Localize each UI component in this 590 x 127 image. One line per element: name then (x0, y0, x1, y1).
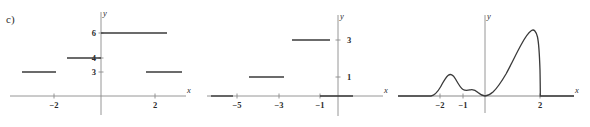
chart-1: −2 2 6 4 3 x y (0, 0, 200, 127)
curve-path (398, 30, 574, 96)
x-ticklabel-2: 2 (153, 100, 157, 110)
chart-3-axes (398, 15, 574, 113)
x-ticklabel--3: −3 (274, 100, 283, 110)
x-ticklabel--2: −2 (49, 100, 58, 110)
chart-2-labels: −5 −3 −1 3 1 x y (232, 11, 388, 110)
y-axis-label: y (102, 8, 107, 18)
x-ticklabel--1: −1 (315, 100, 324, 110)
chart-2: −5 −3 −1 3 1 x y (195, 0, 395, 127)
x-ticklabel--2: −2 (435, 100, 444, 110)
chart-1-axes (10, 12, 186, 115)
chart-3-series (398, 30, 574, 96)
y-axis-label: y (486, 11, 491, 21)
y-axis-label: y (339, 11, 344, 21)
chart-1-series (22, 33, 182, 72)
y-ticklabel-3: 3 (347, 35, 351, 45)
y-ticklabel-3: 3 (92, 67, 96, 77)
chart-3: −2 −1 2 x y (390, 0, 590, 127)
x-axis-label: x (574, 85, 579, 95)
y-ticklabel-1: 1 (347, 72, 351, 82)
x-ticklabel--5: −5 (232, 100, 241, 110)
chart-1-labels: −2 2 6 4 3 x y (49, 8, 191, 110)
x-ticklabel--1: −1 (458, 100, 467, 110)
x-ticklabel-2: 2 (538, 100, 542, 110)
chart-2-series (211, 40, 353, 96)
figure-panel-c: c) −2 2 6 4 3 x y (0, 0, 590, 127)
x-axis-label: x (383, 85, 388, 95)
y-ticklabel-6: 6 (92, 28, 96, 38)
chart-3-labels: −2 −1 2 x y (435, 11, 579, 110)
x-axis-label: x (186, 85, 191, 95)
